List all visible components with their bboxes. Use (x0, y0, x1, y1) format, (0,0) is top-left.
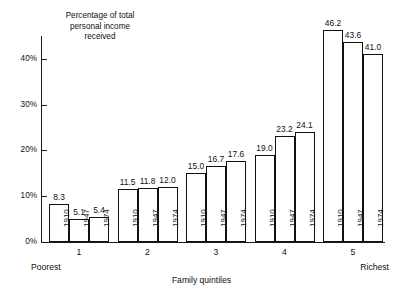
bar-year-label: 1974 (377, 209, 385, 227)
bar-value-label: 46.2 (320, 19, 346, 27)
y-tick-label: 30% (15, 101, 37, 109)
y-tick-label: 10% (15, 192, 37, 200)
bar[interactable]: 1974 (89, 217, 109, 242)
bar-year-wrap: 1974 (364, 199, 382, 239)
y-tick-label: 0% (15, 238, 37, 246)
bar[interactable]: 1974 (226, 161, 246, 242)
bar-year-wrap: 1910 (187, 199, 205, 239)
bar-value-label: 41.0 (360, 43, 386, 51)
y-tick-mark (42, 105, 47, 106)
bar[interactable]: 1947 (343, 42, 363, 242)
x-axis-title: Family quintiles (0, 276, 403, 285)
bar-value-label: 12.0 (155, 176, 181, 184)
y-tick-label: 40% (15, 55, 37, 63)
bar-year-wrap: 1974 (227, 199, 245, 239)
bar-value-label: 17.6 (223, 150, 249, 158)
x-group-label: 3 (196, 248, 236, 257)
bar-year-wrap: 1910 (324, 199, 342, 239)
y-tick-mark (42, 150, 47, 151)
bar[interactable]: 1974 (158, 187, 178, 242)
bar[interactable]: 1910 (323, 30, 343, 242)
bar[interactable]: 1947 (206, 166, 226, 242)
bar[interactable]: 1974 (295, 132, 315, 242)
x-axis-label-poorest: Poorest (31, 263, 61, 272)
bar[interactable]: 1947 (275, 136, 295, 242)
bar-year-wrap: 1947 (139, 199, 157, 239)
y-tick-label: 20% (15, 146, 37, 154)
bar-year-wrap: 1947 (70, 199, 88, 239)
bar-year-label: 1974 (240, 209, 248, 227)
bar[interactable]: 1947 (69, 219, 89, 242)
bar[interactable]: 1974 (363, 54, 383, 242)
bar[interactable]: 1947 (138, 188, 158, 242)
x-axis-line (41, 242, 385, 243)
bar-year-wrap: 1974 (159, 199, 177, 239)
x-axis-label-richest: Richest (360, 263, 389, 272)
bar-year-wrap: 1947 (344, 199, 362, 239)
bar[interactable]: 1910 (118, 189, 138, 242)
bar-value-label: 24.1 (292, 121, 318, 129)
y-tick-mark (42, 242, 47, 243)
bar-year-wrap: 1910 (119, 199, 137, 239)
bar[interactable]: 1910 (255, 155, 275, 242)
y-tick-mark (42, 59, 47, 60)
y-axis-line (41, 36, 42, 243)
bar-year-wrap: 1974 (296, 199, 314, 239)
bar-year-wrap: 1947 (207, 199, 225, 239)
bar-value-label: 5.4 (86, 206, 112, 214)
x-group-label: 4 (265, 248, 305, 257)
bar-year-wrap: 1910 (50, 199, 68, 239)
bar-value-label: 43.6 (340, 31, 366, 39)
x-group-label: 1 (59, 248, 99, 257)
bar[interactable]: 1910 (186, 173, 206, 242)
y-axis-title: Percentage of total personal income rece… (44, 11, 156, 43)
bar-chart: Percentage of total personal income rece… (0, 0, 403, 293)
x-group-label: 5 (333, 248, 373, 257)
bar-year-label: 1974 (309, 209, 317, 227)
bar-value-label: 8.3 (46, 193, 72, 201)
x-group-label: 2 (128, 248, 168, 257)
bar-year-wrap: 1947 (276, 199, 294, 239)
bar-year-wrap: 1910 (256, 199, 274, 239)
bar-year-label: 1974 (172, 209, 180, 227)
